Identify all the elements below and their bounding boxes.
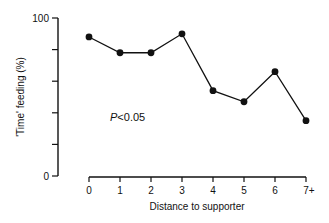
y-tick-label: 100 (32, 13, 49, 24)
data-point (86, 34, 93, 41)
data-point (179, 30, 186, 37)
x-tick-label: 3 (179, 185, 185, 196)
x-axis: 01234567+ (86, 177, 315, 196)
x-tick-label: 6 (272, 185, 278, 196)
data-point (210, 87, 217, 94)
data-point (241, 98, 248, 105)
line-chart: 0100 01234567+ 'Time' feeding (%) Distan… (0, 0, 329, 223)
p-value-annotation: P<0.05 (110, 111, 145, 123)
x-tick-label: 2 (148, 185, 154, 196)
data-point (148, 49, 155, 56)
x-tick-label: 1 (117, 185, 123, 196)
data-point (272, 68, 279, 75)
x-tick-label: 5 (241, 185, 247, 196)
data-point (303, 117, 310, 124)
x-tick-label: 7+ (303, 185, 315, 196)
y-axis-title: 'Time' feeding (%) (15, 57, 26, 137)
series-line (89, 34, 306, 121)
x-tick-label: 4 (210, 185, 216, 196)
x-tick-label: 0 (86, 185, 92, 196)
x-axis-title: Distance to supporter (149, 201, 245, 212)
data-point (117, 49, 124, 56)
y-axis: 0100 (32, 13, 58, 182)
y-tick-label: 0 (43, 171, 49, 182)
